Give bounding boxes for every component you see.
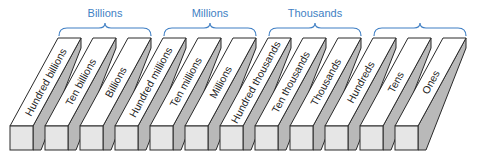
bar-front-face [325,126,348,150]
bar-front-face [115,126,138,150]
bar-front-face [255,126,278,150]
bar-front-face [360,126,383,150]
bar-front-face [220,126,243,150]
bar-front-face [395,126,418,150]
group-brace [59,23,151,36]
bar-front-face [185,126,208,150]
group-label: Millions [192,7,229,19]
group-label: Thousands [288,7,343,19]
bar-front-face [80,126,103,150]
bar-front-face [45,126,68,150]
place-value-diagram: Hundred billionsTen billionsBillionsHund… [0,0,478,161]
group-brace [374,23,466,36]
group-label: Billions [88,7,123,19]
group-brace [164,23,256,36]
bar-front-face [150,126,173,150]
group-brace [269,23,361,36]
bar-front-face [10,126,33,150]
bar-front-face [290,126,313,150]
